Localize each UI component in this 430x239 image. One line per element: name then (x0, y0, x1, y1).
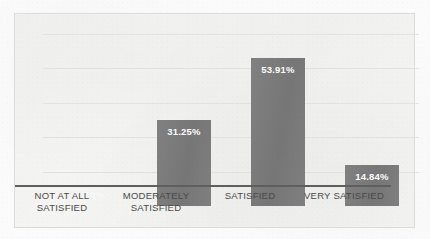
category-label-line: SATISFIED (109, 202, 203, 214)
category-label-line: SATISFIED (15, 202, 109, 214)
category-label-moderately-satisfied: MODERATELY SATISFIED (109, 190, 203, 214)
category-label-line: SATISFIED (203, 190, 297, 202)
bar-series: 0.00% 31.25% 53.91% 14.84% (43, 34, 419, 206)
category-label-not-at-all-satisfied: NOT AT ALL SATISFIED (15, 190, 109, 214)
bar-slot-not-at-all-satisfied: 0.00% (43, 34, 137, 206)
category-label-satisfied: SATISFIED (203, 190, 297, 202)
category-label-line: MODERATELY (109, 190, 203, 202)
category-label-line: NOT AT ALL (15, 190, 109, 202)
x-axis-category-labels: NOT AT ALL SATISFIED MODERATELY SATISFIE… (15, 190, 391, 226)
scanned-page-background: 0.00% 31.25% 53.91% 14.84% NOT AT ALL SA… (0, 0, 430, 239)
x-axis-line (15, 185, 391, 187)
bar-satisfied[interactable] (251, 58, 305, 206)
bar-value-label-satisfied: 53.91% (231, 64, 325, 75)
category-label-very-satisfied: VERY SATISFIED (297, 190, 391, 202)
bar-value-label-moderately-satisfied: 31.25% (137, 126, 231, 137)
bar-slot-satisfied: 53.91% (231, 34, 325, 206)
chart-panel: 0.00% 31.25% 53.91% 14.84% NOT AT ALL SA… (14, 13, 415, 228)
bar-value-label-very-satisfied: 14.84% (325, 171, 419, 182)
bar-slot-moderately-satisfied: 31.25% (137, 34, 231, 206)
category-label-line: VERY SATISFIED (297, 190, 391, 202)
bar-slot-very-satisfied: 14.84% (325, 34, 419, 206)
